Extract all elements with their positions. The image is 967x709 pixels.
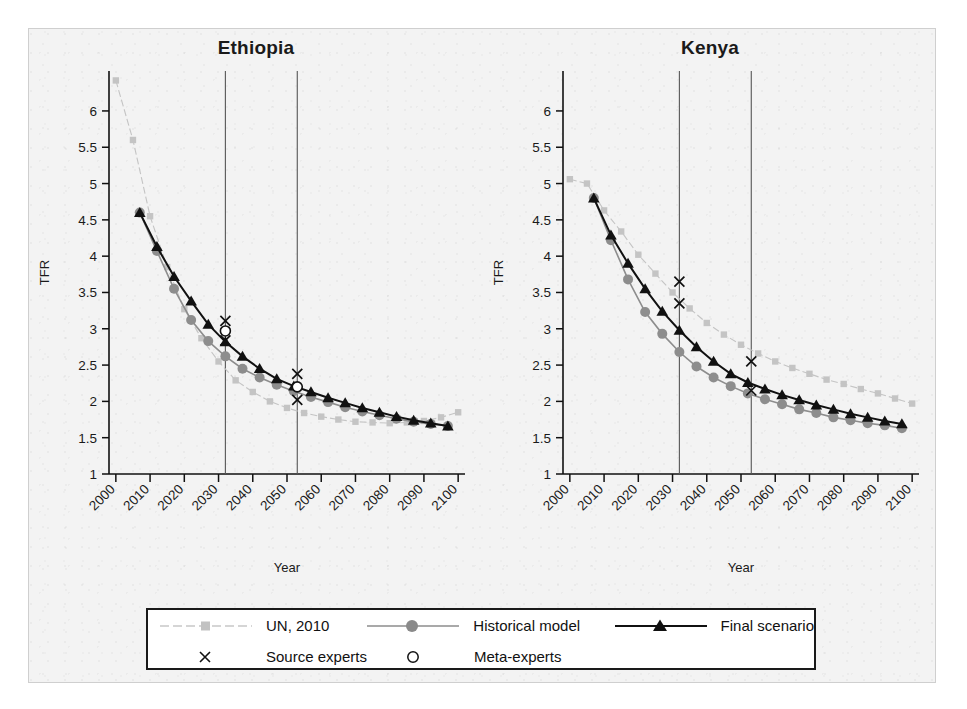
y-tick-label: 3	[89, 322, 97, 337]
square-marker	[721, 331, 727, 337]
y-tick-label: 5	[543, 177, 551, 192]
square-marker	[858, 386, 864, 392]
legend-item-historical-model: Historical model	[365, 617, 612, 635]
x-tick-label: 2050	[711, 482, 743, 514]
circle-marker-icon	[365, 617, 461, 635]
square-marker	[755, 350, 761, 356]
series-line	[570, 179, 912, 403]
series-group	[113, 77, 462, 431]
panel-title-ethiopia: Ethiopia	[29, 37, 483, 59]
x-axis-title: Year	[274, 560, 301, 575]
x-tick-label: 2080	[814, 482, 846, 514]
x-tick-label: 2020	[609, 482, 641, 514]
square-marker	[567, 176, 573, 182]
legend-item-final-scenario: Final scenario	[613, 617, 814, 635]
circle-marker	[186, 315, 196, 325]
x-tick-label: 2070	[780, 482, 812, 514]
x-tick-label: 2050	[257, 482, 289, 514]
square-marker	[652, 270, 658, 276]
circle-marker	[238, 364, 248, 374]
square-marker	[352, 419, 358, 425]
x-tick-label: 2060	[291, 482, 323, 514]
square-marker	[840, 381, 846, 387]
y-tick-label: 2.5	[78, 358, 97, 373]
x-tick-label: 2000	[86, 482, 118, 514]
x-tick-label: 2030	[643, 482, 675, 514]
legend-label-historical-model: Historical model	[473, 617, 580, 634]
circle-marker	[828, 412, 838, 422]
x-tick-label: 2090	[394, 482, 426, 514]
y-tick-label: 1	[89, 467, 97, 482]
legend-item-source-experts: Source experts	[148, 648, 366, 666]
y-tick-label: 2.5	[532, 358, 551, 373]
legend-label-source-experts: Source experts	[266, 648, 367, 665]
square-marker	[335, 416, 341, 422]
square-marker	[455, 409, 461, 415]
triangle-marker	[622, 258, 634, 268]
legend-row-1: UN, 2010 Historical model	[148, 610, 814, 641]
legend-row-2: Source experts Meta-experts	[148, 641, 814, 672]
x-tick-label: 2010	[120, 482, 152, 514]
y-tick-label: 3.5	[78, 285, 97, 300]
legend-label-un-2010: UN, 2010	[266, 617, 329, 634]
y-tick-label: 5.5	[78, 140, 97, 155]
open-circle-marker-icon	[366, 648, 462, 666]
chart-panel-ethiopia: Ethiopia 11.522.533.544.555.56TFR2000201…	[29, 29, 483, 604]
plot-area-kenya: 11.522.533.544.555.56TFR2000201020202030…	[483, 59, 937, 599]
y-tick-label: 3.5	[532, 285, 551, 300]
x-tick-label: 2100	[882, 482, 914, 514]
square-marker	[147, 213, 153, 219]
square-marker	[601, 207, 607, 213]
chart-legend: UN, 2010 Historical model	[146, 608, 816, 670]
circle-marker	[203, 336, 213, 346]
y-tick-label: 2	[89, 394, 97, 409]
square-marker	[438, 414, 444, 420]
square-marker	[113, 77, 119, 83]
chart-panel-kenya: Kenya 11.522.533.544.555.56TFR2000201020…	[483, 29, 937, 604]
plot-area-ethiopia: 11.522.533.544.555.56TFR2000201020202030…	[29, 59, 483, 599]
square-marker-icon	[158, 617, 254, 635]
legend-label-meta-experts: Meta-experts	[474, 648, 562, 665]
y-tick-label: 5.5	[532, 140, 551, 155]
triangle-marker-icon	[613, 617, 709, 635]
y-axis-title: TFR	[37, 260, 52, 285]
square-marker	[584, 180, 590, 186]
square-marker	[704, 320, 710, 326]
square-marker	[686, 305, 692, 311]
circle-marker	[692, 362, 702, 372]
circle-marker	[760, 394, 770, 404]
circle-marker	[623, 274, 633, 284]
y-tick-label: 1	[543, 467, 551, 482]
square-marker	[318, 413, 324, 419]
square-marker	[892, 395, 898, 401]
x-tick-label: 2100	[428, 482, 460, 514]
y-tick-label: 1.5	[532, 431, 551, 446]
x-axis-title: Year	[728, 560, 755, 575]
legend-label-final-scenario: Final scenario	[721, 617, 814, 634]
figure-panel: Ethiopia 11.522.533.544.555.56TFR2000201…	[28, 28, 936, 683]
square-marker	[909, 400, 915, 406]
y-tick-label: 2	[543, 394, 551, 409]
triangle-marker	[639, 283, 651, 293]
square-marker	[369, 419, 375, 425]
square-marker	[215, 358, 221, 364]
y-tick-label: 4	[89, 249, 97, 264]
circle-marker	[220, 351, 230, 361]
triangle-marker	[742, 377, 754, 387]
y-tick-label: 6	[543, 104, 551, 119]
open-circle-marker	[292, 382, 302, 392]
series-line	[116, 80, 458, 423]
y-axis-title: TFR	[491, 260, 506, 285]
circle-marker	[794, 404, 804, 414]
x-tick-label: 2070	[326, 482, 358, 514]
y-tick-label: 4	[543, 249, 551, 264]
square-marker	[250, 389, 256, 395]
open-circle-marker	[220, 326, 230, 336]
chart-svg-kenya: 11.522.533.544.555.56TFR2000201020202030…	[483, 59, 937, 599]
x-tick-label: 2090	[848, 482, 880, 514]
x-tick-label: 2020	[155, 482, 187, 514]
y-tick-label: 4.5	[78, 213, 97, 228]
square-marker	[806, 371, 812, 377]
square-marker	[875, 390, 881, 396]
circle-marker	[777, 399, 787, 409]
